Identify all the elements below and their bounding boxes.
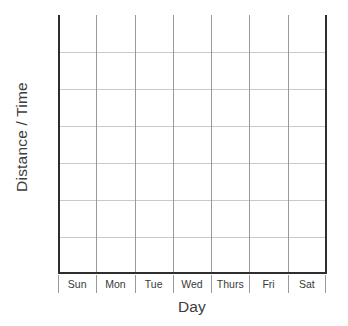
x-axis-tick-label: Sun <box>58 275 96 294</box>
gridline-vertical <box>288 15 289 273</box>
y-axis-title: Distance / Time <box>0 0 44 274</box>
gridline-horizontal <box>58 52 326 53</box>
y-axis-title-text: Distance / Time <box>13 82 31 192</box>
gridline-vertical <box>96 15 97 273</box>
x-axis-line <box>58 272 327 274</box>
x-axis-tick-label: Thurs <box>211 275 249 294</box>
x-axis-tick-label: Fri <box>249 275 287 294</box>
gridline-vertical <box>249 15 250 273</box>
gridline-vertical <box>211 15 212 273</box>
gridline-horizontal <box>58 200 326 201</box>
x-axis-tick-label: Wed <box>173 275 211 294</box>
plot-area <box>58 15 326 273</box>
gridline-vertical <box>173 15 174 273</box>
x-axis-tick-labels: Sun Mon Tue Wed Thurs Fri Sat <box>58 275 326 294</box>
gridline-horizontal <box>58 237 326 238</box>
gridline-horizontal <box>58 89 326 90</box>
x-axis-tick-label: Tue <box>135 275 173 294</box>
gridline-vertical <box>135 15 136 273</box>
x-axis-tick-label: Sat <box>288 275 326 294</box>
gridline-horizontal <box>58 163 326 164</box>
y-axis-line <box>58 15 60 274</box>
x-axis-title: Day <box>58 298 326 316</box>
chart-container: Distance / Time Sun Mon Tue Wed <box>0 0 348 326</box>
right-border-line <box>325 15 327 274</box>
x-axis-tick-label: Mon <box>96 275 134 294</box>
gridline-horizontal <box>58 126 326 127</box>
